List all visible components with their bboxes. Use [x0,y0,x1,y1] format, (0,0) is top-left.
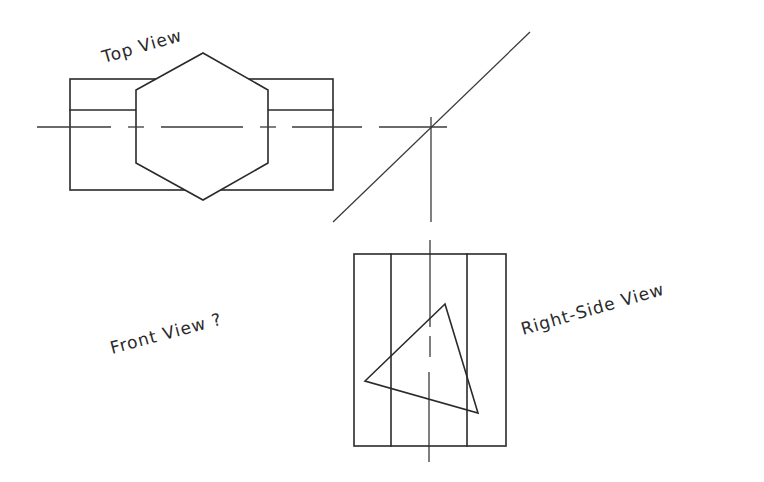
triangle [365,304,478,413]
orthographic-drawing: Top View [0,0,764,482]
drawing-canvas: Top View [0,0,764,482]
top-view [37,53,447,200]
label-top-view: Top View [99,25,185,67]
vertical-centerline [429,117,431,462]
label-front-view: Front View ? [108,309,224,358]
label-right-side-view: Right-Side View [519,279,667,339]
